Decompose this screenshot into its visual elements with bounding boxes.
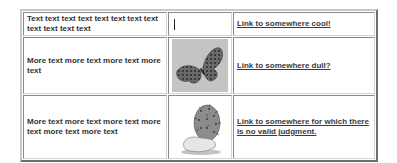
table-row: More text more text more text more text … [23,95,375,159]
text-cell: More text more text more text more text … [23,95,167,159]
link-somewhere-dull[interactable]: Link to somewhere dull? [237,61,331,70]
page: Text text text text text text text text … [0,0,397,163]
butterfly-image [172,39,228,92]
link-somewhere-cool[interactable]: Link to somewhere cool! [237,19,331,28]
cactus-icon [173,97,227,157]
link-no-valid-judgment[interactable]: Link to somewhere for which there is no … [237,117,369,136]
image-cell [168,12,232,36]
link-cell: Link to somewhere for which there is no … [233,95,375,159]
text-cell: Text text text text text text text text … [23,12,167,36]
table-row: Text text text text text text text text … [23,12,375,36]
link-cell: Link to somewhere dull? [233,37,375,94]
empty-image-box [172,14,230,34]
content-table: Text text text text text text text text … [20,9,378,162]
image-cell [168,95,232,159]
butterfly-icon [173,41,227,91]
text-cell: More text more text more text more text [23,37,167,94]
text-cursor-icon [174,19,175,30]
cactus-image [172,97,228,157]
table-row: More text more text more text more text [23,37,375,94]
image-cell [168,37,232,94]
link-cell: Link to somewhere cool! [233,12,375,36]
